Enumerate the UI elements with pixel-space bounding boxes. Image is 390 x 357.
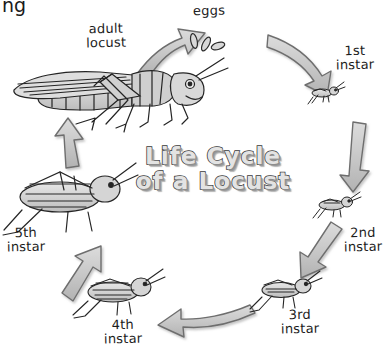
stage-label-fourth-instar: 4th instar	[98, 317, 149, 346]
life-cycle-diagram: Life Cycle of a Locust ng adult locust e…	[0, 0, 390, 357]
adult-locust-icon	[14, 58, 228, 132]
stage-label-first-instar: 1st instar	[330, 43, 381, 72]
arrow-fifth-to-adult	[55, 118, 83, 168]
stage-label-fifth-instar: 5th instar	[0, 225, 52, 254]
locust-nymph-2nd-instar-icon	[313, 192, 361, 218]
stage-label-adult-locust: adult locust	[76, 21, 137, 50]
arrow-second-to-third	[300, 222, 342, 278]
stage-label-second-instar: 2nd instar	[338, 225, 389, 254]
cropped-corner-text: ng	[2, 0, 26, 12]
stage-label-eggs: eggs	[186, 4, 232, 19]
arrow-first-to-second	[340, 122, 369, 192]
locust-nymph-3rd-instar-icon	[250, 271, 322, 312]
stage-label-third-instar: 3rd instar	[275, 307, 326, 336]
locust-eggs-icon	[189, 33, 225, 52]
arrow-third-to-fourth	[158, 305, 255, 337]
arrow-eggs-to-first	[267, 35, 331, 96]
